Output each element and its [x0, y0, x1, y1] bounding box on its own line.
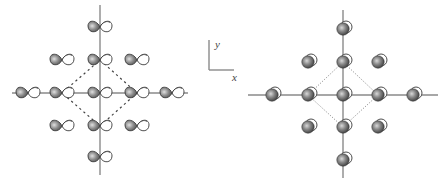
s-lattice-orbital-icon: [302, 54, 317, 68]
s-lattice-orbital-icon: [372, 54, 387, 68]
s-lattice-orbital-icon: [302, 87, 317, 101]
p-lattice-orbital-icon: [50, 87, 74, 98]
s-lattice-orbital-icon: [302, 119, 317, 133]
p-lattice-orbital-icon: [16, 87, 40, 98]
p-lattice-orbital-icon: [160, 87, 184, 98]
s-lattice-orbital-icon: [372, 119, 387, 133]
s-lattice-orbital-icon: [337, 87, 352, 101]
y-axis-label: y: [214, 38, 220, 50]
x-axis-label: x: [231, 71, 237, 83]
s-lattice-orbital-icon: [337, 119, 352, 133]
lattice-figure: y x: [0, 0, 446, 184]
coordinate-frame: y x: [209, 38, 237, 83]
p-lattice-orbital-icon: [50, 120, 74, 131]
s-lattice-orbital-icon: [337, 21, 352, 35]
p-orbital-lattice-panel: [12, 5, 188, 175]
s-lattice-orbital-icon: [337, 54, 352, 68]
s-lattice-orbital-icon: [372, 87, 387, 101]
s-lattice-orbital-icon: [337, 152, 352, 166]
p-lattice-orbital-icon: [125, 87, 149, 98]
p-lattice-orbital-icon: [125, 54, 149, 65]
p-lattice-orbital-icon: [50, 54, 74, 65]
s-lattice-orbital-icon: [407, 87, 422, 101]
s-lattice-orbital-icon: [266, 87, 281, 101]
s-orbital-lattice-panel: [248, 10, 438, 178]
p-lattice-orbital-icon: [125, 120, 149, 131]
